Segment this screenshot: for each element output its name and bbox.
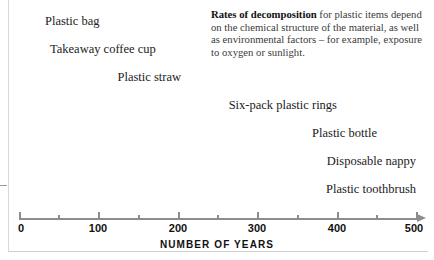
bar-row: Plastic bottle [19, 124, 382, 142]
bar-row: Plastic toothbrush [19, 180, 421, 198]
axis-tick-label: 100 [89, 222, 107, 234]
axis-tick-major [19, 212, 21, 219]
axis-arrow-icon [417, 214, 426, 222]
axis-tick-label: 200 [169, 222, 187, 234]
axis-tick-label: 0 [18, 222, 24, 234]
axis-tick-minor [217, 215, 219, 219]
bar-row: Disposable nappy [19, 152, 421, 170]
bar-label: Plastic bag [45, 14, 100, 29]
axis-tick-major [416, 212, 418, 219]
bar-row: Plastic bag [19, 12, 38, 30]
axis-tick-label: 300 [248, 222, 266, 234]
bar-label: Plastic toothbrush [326, 182, 416, 197]
axis-tick-major [337, 212, 339, 219]
axis-tick-minor [138, 215, 140, 219]
x-axis: 0 100 200 300 400 500 NUMBER OF YEARS [0, 212, 434, 260]
axis-title: NUMBER OF YEARS [0, 239, 434, 250]
bar-label: Disposable nappy [327, 154, 416, 169]
bar-row: Six-pack plastic rings [19, 96, 342, 114]
axis-tick-minor [297, 215, 299, 219]
axis-line [19, 218, 421, 220]
axis-tick-minor [58, 215, 60, 219]
axis-tick-minor [376, 215, 378, 219]
axis-tick-major [178, 212, 180, 219]
axis-tick-major [98, 212, 100, 219]
bar-label: Six-pack plastic rings [229, 98, 337, 113]
decomposition-chart-figure: Rates of decomposition for plastic items… [0, 0, 434, 260]
axis-tick-label: 500 [405, 222, 423, 234]
bar-label: Plastic straw [117, 70, 181, 85]
bar-label: Plastic bottle [312, 126, 377, 141]
axis-tick-label: 400 [328, 222, 346, 234]
bar-label: Takeaway coffee cup [50, 42, 156, 57]
bar-row: Takeaway coffee cup [19, 40, 43, 58]
bar-row: Plastic straw [19, 68, 186, 86]
axis-tick-major [257, 212, 259, 219]
